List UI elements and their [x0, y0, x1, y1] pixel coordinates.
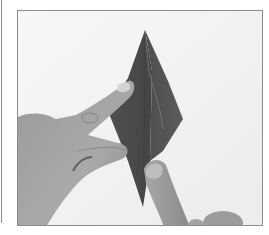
previous-panel-edge [1, 0, 2, 223]
photo-frame: Origami folding step: left hand index fi… [17, 10, 263, 226]
origami-photo [18, 11, 263, 226]
